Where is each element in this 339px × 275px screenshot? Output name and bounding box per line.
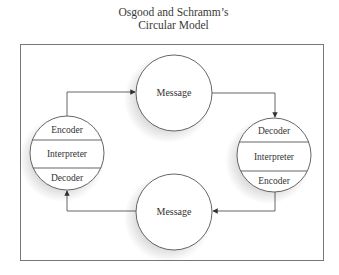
right-interpreter-label: Interpreter xyxy=(254,152,295,162)
top-message-label: Message xyxy=(157,87,193,98)
right-encoder-label: Encoder xyxy=(258,176,290,186)
left-encoder-label: Encoder xyxy=(51,125,83,135)
right-decoder-label: Decoder xyxy=(258,126,291,136)
arrow-top-message-to-right xyxy=(212,93,275,117)
top-message-node: Message xyxy=(136,55,212,131)
left-interpreter-label: Interpreter xyxy=(47,149,88,159)
bottom-message-node: Message xyxy=(136,174,212,250)
left-decoder-label: Decoder xyxy=(51,173,84,183)
bottom-message-label: Message xyxy=(157,206,193,217)
diagram-canvas: Message Message Encoder Interpreter Deco… xyxy=(0,0,339,275)
